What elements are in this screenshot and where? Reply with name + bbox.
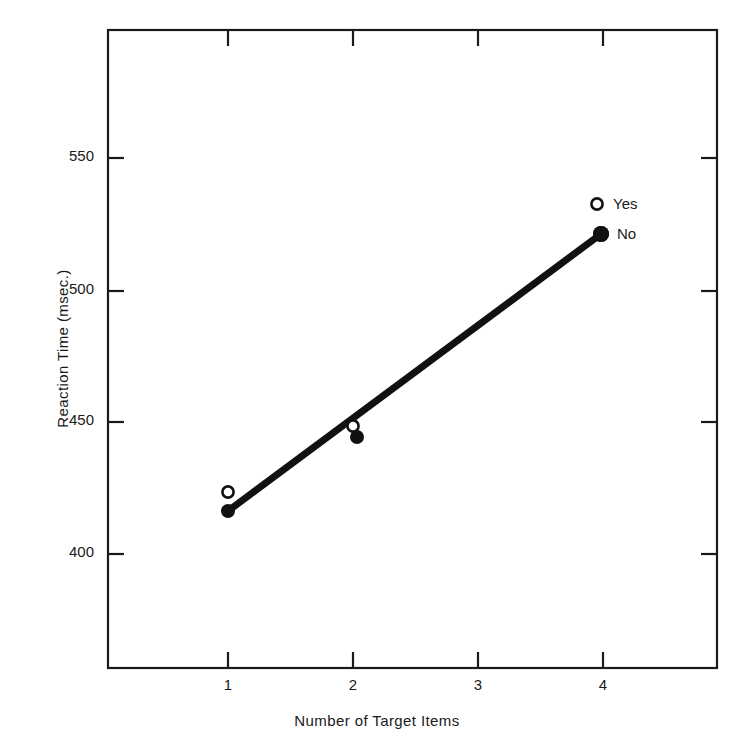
x-axis-title: Number of Target Items <box>0 712 754 729</box>
legend-label-no: No <box>617 225 636 242</box>
legend-marker-yes <box>591 198 602 209</box>
y-axis-ticks-right <box>701 158 717 554</box>
x-tick-label-4: 4 <box>583 676 623 693</box>
y-tick-label-400: 400 <box>36 543 94 560</box>
y-tick-label-550: 550 <box>36 147 94 164</box>
legend-marker-no <box>593 226 609 242</box>
x-tick-label-2: 2 <box>333 676 373 693</box>
x-axis-ticks-top <box>228 30 603 46</box>
legend-label-yes: Yes <box>613 195 637 212</box>
x-tick-label-3: 3 <box>458 676 498 693</box>
plot-frame <box>108 30 717 668</box>
y-axis-title: Reaction Time (msec.) <box>54 169 71 529</box>
y-axis-ticks <box>108 158 124 554</box>
chart-canvas <box>0 0 754 753</box>
chart-figure: 550 500 450 400 1 2 3 4 Yes No Number of… <box>0 0 754 753</box>
x-tick-label-1: 1 <box>208 676 248 693</box>
trend-line <box>228 234 601 511</box>
x-axis-ticks <box>228 652 603 668</box>
